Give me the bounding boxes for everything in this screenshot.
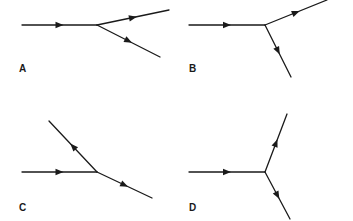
arrowhead-icon (56, 22, 64, 28)
panel-label: D (189, 202, 196, 213)
arrowheads (56, 11, 300, 199)
panel-label: A (19, 63, 26, 74)
arrowhead-icon (291, 11, 300, 17)
vertex-diagrams: A B C D (0, 0, 353, 221)
panel-b: B (189, 0, 327, 77)
panel-d: D (189, 114, 290, 219)
arrowhead-icon (272, 139, 278, 148)
panel-label: C (19, 202, 26, 213)
panel-label: B (189, 63, 196, 74)
arrowhead-icon (273, 46, 279, 55)
arrowhead-icon (273, 190, 280, 199)
arrowhead-icon (56, 169, 64, 175)
arrowhead-icon (128, 15, 136, 21)
panel-a: A (19, 10, 169, 74)
arrowhead-icon (123, 36, 132, 42)
arrowhead-icon (223, 22, 231, 28)
arrowhead-icon (223, 169, 231, 175)
arrowhead-icon (120, 180, 129, 186)
panel-c: C (19, 121, 152, 213)
